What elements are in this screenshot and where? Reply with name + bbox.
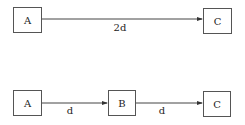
node-label: A [24, 15, 31, 26]
node-label: A [24, 98, 31, 109]
node-bottom-a: A [13, 90, 42, 116]
edge-label-top-2d: 2d [114, 22, 127, 33]
node-bottom-c: C [203, 91, 231, 117]
node-label: C [213, 99, 221, 110]
node-label: B [118, 98, 125, 109]
node-top-c: C [203, 8, 232, 34]
node-label: C [214, 16, 222, 27]
node-bottom-b: B [108, 90, 136, 116]
node-top-a: A [13, 7, 42, 33]
edge-label-bottom-ab-d: d [67, 105, 73, 116]
edge-label-bottom-bc-d: d [159, 105, 165, 116]
